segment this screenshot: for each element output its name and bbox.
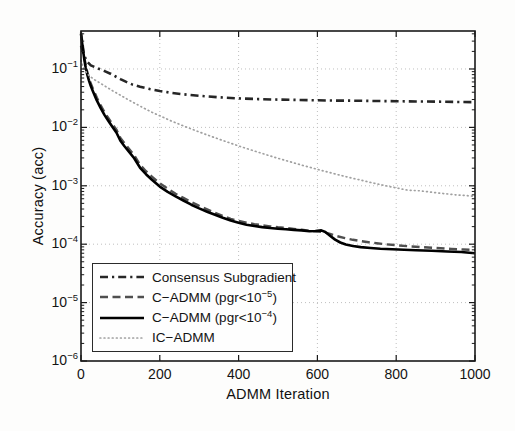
y-tick-label-5: 10−6 (52, 350, 78, 368)
legend-entry-c-admm-pgr-1e-5: C−ADMM (pgr<10−5) (99, 287, 292, 307)
x-tick-label-800: 800 (385, 366, 409, 382)
x-tick-label-1000: 1000 (459, 366, 490, 382)
y-tick-label-0: 10−1 (52, 58, 78, 76)
y-tick-label-4: 10−5 (52, 292, 78, 310)
plot-svg: 0200400600800100010−110−210−310−410−510−… (0, 0, 515, 431)
c-admm-pgr-1e-5-line-sample-icon (99, 291, 145, 303)
x-tick-label-400: 400 (227, 366, 251, 382)
y-tick-label-1: 10−2 (52, 116, 78, 134)
y-tick-label-3: 10−4 (52, 233, 78, 251)
legend-label-consensus-subgradient: Consensus Subgradient (152, 270, 296, 285)
figure: 0200400600800100010−110−210−310−410−510−… (0, 0, 515, 431)
y-axis-label: Accuracy (acc) (30, 147, 46, 246)
legend-entry-ic-admm: IC−ADMM (99, 328, 292, 348)
c-admm-pgr-1e-4-line-sample-icon (99, 312, 145, 324)
consensus-subgradient-line-sample-icon (99, 271, 145, 283)
y-tick-label-2: 10−3 (52, 175, 78, 193)
x-tick-label-600: 600 (306, 366, 330, 382)
legend-label-c-admm-pgr-1e-5: C−ADMM (pgr<10−5) (152, 290, 277, 305)
x-axis-label: ADMM Iteration (81, 386, 475, 402)
ic-admm-line-sample-icon (99, 332, 145, 344)
legend-entry-consensus-subgradient: Consensus Subgradient (99, 267, 292, 287)
legend-label-ic-admm: IC−ADMM (152, 330, 215, 345)
x-tick-label-0: 0 (77, 366, 85, 382)
legend-entry-c-admm-pgr-1e-4: C−ADMM (pgr<10−4) (99, 308, 292, 328)
x-tick-label-200: 200 (148, 366, 172, 382)
legend: Consensus SubgradientC−ADMM (pgr<10−5)C−… (92, 263, 293, 352)
legend-label-c-admm-pgr-1e-4: C−ADMM (pgr<10−4) (152, 310, 277, 325)
